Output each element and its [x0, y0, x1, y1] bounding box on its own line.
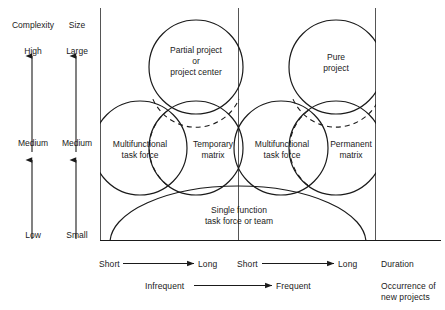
- complexity-axis-bottom-label: Low: [10, 230, 56, 241]
- diagram-canvas: Complexity High Medium Low Size Large Me…: [0, 0, 445, 310]
- region-label-multifunctional-task-force-left: Multifunctional task force: [98, 139, 182, 161]
- region-label-temporary-matrix: Temporary matrix: [182, 139, 244, 161]
- duration-left-end-label: Long: [198, 259, 228, 270]
- duration-right-start-label: Short: [237, 259, 267, 270]
- duration-left-start-label: Short: [99, 259, 129, 270]
- region-label-partial-project: Partial project or project center: [150, 45, 242, 78]
- region-label-multifunctional-task-force-right: Multifunctional task force: [240, 139, 324, 161]
- size-axis-bottom-label: Small: [54, 230, 100, 241]
- region-label-permanent-matrix: Permanent matrix: [320, 139, 382, 161]
- occurrence-end-label: Frequent: [276, 281, 324, 292]
- region-label-single-function: Single function task force or team: [176, 205, 302, 227]
- region-label-pure-project: Pure project: [302, 52, 370, 74]
- size-axis-header: Size: [56, 20, 98, 31]
- duration-right-end-label: Long: [338, 259, 368, 270]
- complexity-axis-top-label: High: [8, 46, 58, 57]
- occurrence-axis-caption: Occurrence of new projects: [381, 281, 443, 302]
- size-axis-top-label: Large: [54, 46, 100, 57]
- duration-axis-caption: Duration: [381, 259, 439, 270]
- occurrence-start-label: Infrequent: [145, 281, 193, 292]
